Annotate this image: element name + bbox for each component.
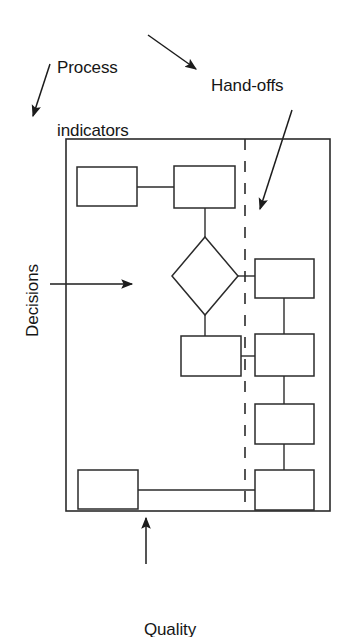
annotation-label-decisions: Decisions [22,246,43,356]
node-decision-diamond [172,237,238,315]
node-box-right-1 [255,259,314,298]
node-box-right-3 [255,404,314,444]
annotation-label-quality-indicators: Quality indicators [105,577,235,637]
process-indicators-arrow [33,64,50,116]
node-box-right-2 [255,334,314,376]
process-indicators-line-2: indicators [57,120,129,141]
flow-nodes [77,166,314,510]
node-box-mid-left [181,336,241,376]
node-box-second [174,166,235,208]
process-indicators-line-1: Process [57,57,129,78]
hand-offs-arrow-upper [148,35,196,69]
node-box-bottom-left [78,470,138,509]
quality-indicators-line-1: Quality [105,619,235,637]
diagram-canvas [0,0,344,637]
annotation-label-process-indicators: Process indicators [57,15,129,183]
annotation-label-hand-offs: Hand-offs [211,75,284,96]
hand-offs-arrow-lower [260,110,292,209]
node-box-right-4 [255,470,314,510]
